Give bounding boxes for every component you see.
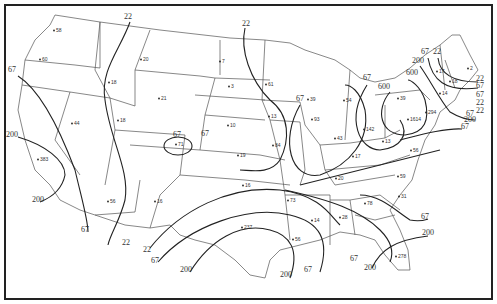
station-dot-icon [175,144,177,146]
station-value: 278 [395,253,406,259]
contour-label: 67 [476,81,484,90]
station-dot-icon [307,99,309,101]
closed-contour-label: 67 [173,130,181,139]
station-value-label: 93 [314,116,320,122]
station-dot-icon [108,82,110,84]
station-dot-icon [37,159,39,161]
station-value-label: 17 [439,68,445,74]
station-value: 1614 [407,116,421,122]
station-value: 56 [292,236,301,242]
station-value: 18 [117,117,126,123]
station-value: 16 [242,182,251,188]
station-dot-icon [397,98,399,100]
station-value: 93 [311,116,320,122]
contour-label: 22 [122,238,130,247]
station-value-label: 18 [111,79,117,85]
station-value: 56 [107,198,116,204]
station-value: 17 [352,153,361,159]
station-dot-icon [227,125,229,127]
station-value-label: 18 [452,78,458,84]
station-dot-icon [237,155,239,157]
station-value-label: 13 [385,138,391,144]
station-value-label: 14 [442,90,448,96]
station-value-label: 18 [120,117,126,123]
station-value: 44 [71,120,80,126]
contour-label: 67 [151,256,159,265]
station-value-label: 56 [295,236,301,242]
contour-label: 200 [422,228,434,237]
station-value-label: 2 [470,65,473,71]
station-value-label: 142 [366,126,375,132]
station-value: 84 [272,142,281,148]
station-value-label: 13 [271,113,277,119]
station-dot-icon [53,30,55,32]
station-dot-icon [268,116,270,118]
station-value-label: 16 [157,198,163,204]
station-value: 54 [343,97,352,103]
station-value-label: 20 [338,175,344,181]
station-value-label: 28 [342,214,348,220]
station-value-label: 20 [143,56,149,62]
contour-label: 67 [296,94,304,103]
map-border [5,5,492,299]
station-value-label: 17 [355,153,361,159]
station-dot-icon [467,68,469,70]
station-value: 28 [339,214,348,220]
contour-label: 22 [242,19,250,28]
station-value-label: 71 [178,141,184,147]
contour-label: 67 [201,129,209,138]
station-value-label: 294 [428,109,437,115]
station-dot-icon [228,86,230,88]
station-dot-icon [154,201,156,203]
station-dot-icon [265,84,267,86]
station-value-label: 7 [222,58,225,64]
station-value: 73 [287,197,296,203]
station-dot-icon [287,200,289,202]
station-dot-icon [334,138,336,140]
station-dot-icon [158,98,160,100]
contour-label: 600 [378,82,390,91]
station-value-label: 19 [240,152,246,158]
station-value: 71 [175,141,184,147]
station-value: 59 [397,173,406,179]
station-dot-icon [39,59,41,61]
station-value-label: 84 [275,142,281,148]
station-value: 17 [436,68,445,74]
station-value-label: 44 [74,120,80,126]
station-dot-icon [339,217,341,219]
station-dot-icon [242,185,244,187]
contour-label: 22 [476,106,484,115]
contour-label: 22 [433,47,441,56]
station-dot-icon [407,119,409,121]
contour-label: 200 [280,270,292,279]
station-value-label: 56 [110,198,116,204]
station-value-label: 43 [337,135,343,141]
station-value-label: 60 [42,56,48,62]
contour-label: 200 [412,56,424,65]
station-value-label: 237 [244,224,253,230]
contour-label: 67 [421,47,429,56]
station-value-label: 1614 [410,116,421,122]
contour-label: 67 [304,265,312,274]
station-value-label: 59 [400,173,406,179]
station-dot-icon [363,129,365,131]
station-dot-icon [311,119,313,121]
station-value: 39 [307,96,316,102]
station-value-label: 39 [400,95,406,101]
station-value-label: 3 [231,83,234,89]
station-dot-icon [335,178,337,180]
station-values: 5860201821441873613954139310718443142191… [37,27,473,259]
contour-label: 67 [421,212,429,221]
station-value-label: 58 [56,27,62,33]
station-dot-icon [311,220,313,222]
us-map-canvas: 2222672002006722226720020067672006720067… [0,0,497,304]
station-value-label: 383 [40,156,49,162]
station-value: 18 [108,79,117,85]
station-dot-icon [343,100,345,102]
station-value: 61 [265,81,274,87]
station-value: 14 [439,90,448,96]
contour-label: 200 [32,195,44,204]
contour-label: 67 [363,73,371,82]
station-value: 31 [398,193,407,199]
station-dot-icon [140,59,142,61]
